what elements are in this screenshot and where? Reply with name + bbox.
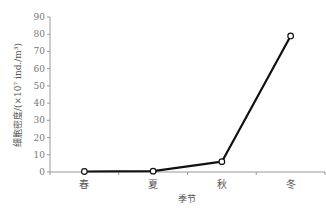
data-point-marker — [82, 169, 88, 175]
y-tick-label: 70 — [34, 46, 46, 56]
data-point-marker — [219, 159, 225, 165]
x-axis: 春夏秋冬 — [50, 172, 325, 190]
line-chart: 0102030405060708090 春夏秋冬 细胞密度/(×10⁷ ind.… — [0, 0, 326, 217]
data-point-marker — [150, 168, 156, 174]
y-tick-label: 60 — [34, 64, 46, 74]
x-axis-title: 季节 — [178, 193, 196, 204]
y-tick-label: 10 — [34, 150, 46, 160]
x-category-label: 春 — [79, 179, 89, 190]
y-tick-label: 50 — [34, 81, 46, 91]
y-tick-label: 40 — [34, 98, 46, 108]
y-tick-label: 20 — [34, 133, 46, 143]
y-axis-title: 细胞密度/(×10⁷ ind./m³) — [12, 43, 23, 147]
series-line — [84, 36, 290, 172]
data-series — [82, 33, 294, 174]
y-tick-label: 0 — [39, 167, 45, 177]
y-tick-label: 80 — [34, 29, 46, 39]
x-category-label: 秋 — [217, 178, 227, 190]
y-tick-label: 30 — [34, 115, 46, 125]
x-category-label: 冬 — [286, 178, 296, 190]
y-tick-label: 90 — [34, 12, 46, 22]
data-point-marker — [288, 33, 294, 39]
x-category-label: 夏 — [148, 179, 158, 190]
y-axis: 0102030405060708090 — [34, 12, 50, 177]
